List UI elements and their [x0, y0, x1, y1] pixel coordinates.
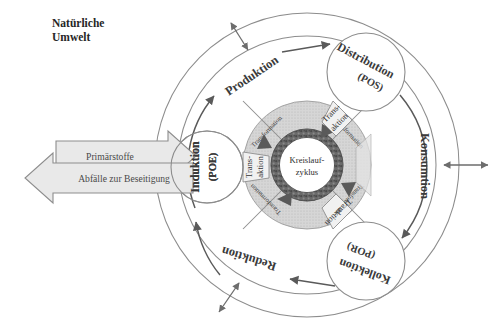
core-disc: [280, 138, 334, 192]
flow-label-konsumtion: Konsumtion: [418, 133, 432, 199]
flow-arrow-reduktion: [290, 279, 335, 286]
page-title-line1: Natürliche: [52, 17, 104, 29]
input-arrow-label: Primärstoffe: [86, 151, 134, 162]
center-label-line2: zyklus: [296, 167, 319, 177]
page-title-line2: Umwelt: [52, 31, 90, 43]
flow-arrow-produktion-2: [282, 44, 330, 52]
flow-label-produktion: Produktion: [223, 53, 281, 99]
transaktion-left-line1: Trans-: [244, 156, 254, 178]
node-kollektion[interactable]: Kollektion (POR): [327, 222, 405, 300]
flow-label-reduktion: Reduktion: [220, 244, 278, 274]
center-label-line1: Kreislauf-: [290, 155, 325, 165]
exchange-arrow-top-left: [231, 23, 248, 50]
node-induktion-code-overlay: (POE): [207, 152, 219, 181]
node-induktion-name-overlay: Induktion: [188, 141, 202, 193]
node-kollektion-circle[interactable]: [327, 222, 405, 300]
output-arrow-label: Abfälle zur Beseitigung: [78, 173, 170, 184]
transaktion-left-line2: aktion: [255, 156, 265, 178]
cycle-diagram: Kreislauf- zyklus Transformation Transfo…: [0, 0, 494, 330]
exchange-arrow-bottom-left: [219, 283, 239, 312]
node-distribution[interactable]: Distribution (POS): [327, 33, 405, 111]
transaktion-left: Trans- aktion: [243, 152, 269, 182]
diagram-canvas: Kreislauf- zyklus Transformation Transfo…: [0, 0, 494, 330]
